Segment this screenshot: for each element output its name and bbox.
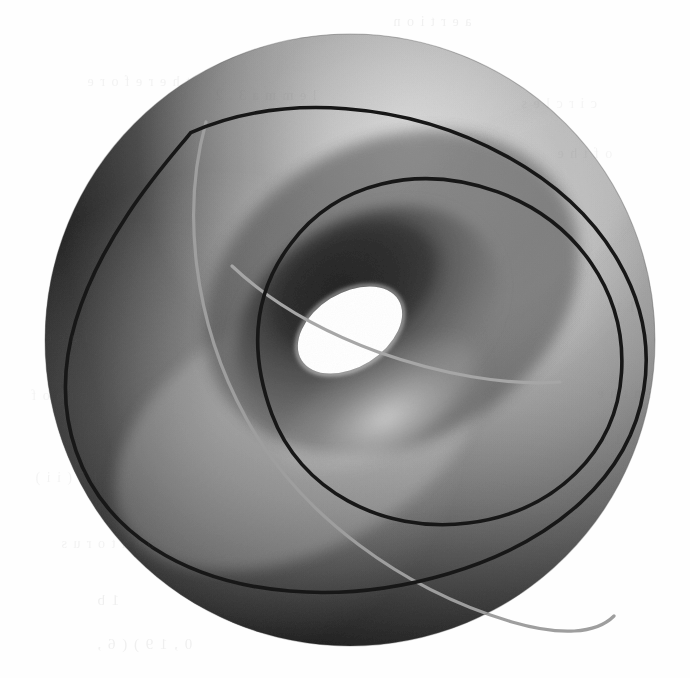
torus-figure: Torus with two Villarceau circles	[0, 0, 690, 678]
torus-illustration-svg: Torus with two Villarceau circles	[0, 0, 690, 678]
